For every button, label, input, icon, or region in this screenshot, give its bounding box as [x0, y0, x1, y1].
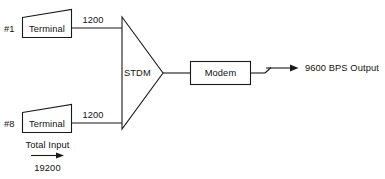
output-arrow-head-icon	[290, 64, 299, 71]
total-input-arrow-head-icon	[56, 152, 64, 158]
modem-label: Modem	[190, 69, 251, 78]
terminal-8-id-label: #8	[4, 120, 15, 129]
total-input-value: 19200	[17, 164, 78, 173]
terminal-1-id-label: #1	[4, 25, 15, 34]
terminal-8-body-label: Terminal	[22, 120, 72, 129]
stdm-label: STDM	[124, 69, 151, 78]
stdm-diagram: #1 Terminal 1200 #8 Terminal 1200 STDM M…	[0, 0, 385, 179]
terminal-1-body-label: Terminal	[22, 25, 72, 34]
terminal-1-rate-label: 1200	[78, 16, 108, 25]
output-label: 9600 BPS Output	[305, 64, 379, 73]
total-input-caption: Total Input	[17, 141, 78, 150]
terminal-8-rate-label: 1200	[78, 111, 108, 120]
